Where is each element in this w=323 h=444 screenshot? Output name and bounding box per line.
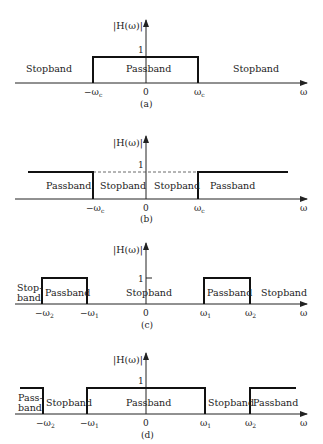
y-axis-label: |H(ω)|: [113, 20, 143, 32]
tick-label: 0: [143, 203, 149, 213]
band-label: Passband: [126, 63, 171, 74]
tick-label: 0: [143, 418, 149, 428]
band-label: Stopband: [233, 63, 279, 74]
unit-level-label: 1: [138, 376, 144, 386]
panel-d-bandstop: |H(ω)| 1 Pass- band Stopband Passband St…: [15, 353, 307, 440]
x-axis-label: ω: [300, 308, 307, 318]
tick-label: 0: [143, 87, 149, 97]
panel-caption: (c): [141, 320, 153, 330]
band-label: Stopband: [100, 180, 146, 191]
tick-label: ωc: [194, 87, 205, 98]
band-label: Stopband: [26, 63, 72, 74]
band-label: Stopband: [126, 287, 172, 298]
panel-caption: (b): [140, 214, 153, 224]
band-label: band: [18, 402, 42, 413]
band-label: Stopband: [46, 397, 92, 408]
tick-label: 0: [143, 308, 149, 318]
band-label: Stopband: [261, 287, 307, 298]
band-label: Passband: [253, 397, 298, 408]
x-axis-label: ω: [300, 418, 307, 428]
y-axis-label: |H(ω)|: [113, 244, 143, 256]
tick-label: −ω1: [80, 418, 99, 429]
tick-label: ω1: [200, 418, 211, 429]
panel-caption: (d): [141, 430, 154, 440]
filter-response-figure: |H(ω)| 1 Stopband Passband Stopband −ωc …: [0, 0, 323, 444]
tick-label: ωc: [194, 203, 205, 214]
y-axis-label: |H(ω)|: [113, 137, 143, 149]
band-label: Passband: [207, 287, 252, 298]
tick-label: ω2: [245, 418, 256, 429]
tick-label: −ωc: [86, 203, 105, 214]
tick-label: ω2: [245, 308, 256, 319]
band-label: Stopband: [208, 397, 254, 408]
y-axis-label: |H(ω)|: [113, 354, 143, 366]
band-label: Passband: [45, 287, 90, 298]
tick-label: −ω2: [36, 418, 55, 429]
tick-label: ω1: [200, 308, 211, 319]
band-label: Passband: [46, 180, 91, 191]
band-label: Passband: [126, 397, 171, 408]
unit-level-label: 1: [138, 160, 144, 170]
tick-label: −ω1: [80, 308, 99, 319]
tick-label: −ωc: [84, 87, 103, 98]
unit-level-label: 1: [138, 274, 144, 284]
panel-a-lowpass: |H(ω)| 1 Stopband Passband Stopband −ωc …: [15, 20, 307, 109]
panel-c-bandpass: |H(ω)| 1 Stop- band Passband Stopband Pa…: [15, 243, 307, 330]
x-axis-label: ω: [300, 203, 307, 213]
tick-label: −ω2: [35, 308, 54, 319]
panel-b-highpass: |H(ω)| 1 Passband Stopband Stopband Pass…: [15, 136, 307, 224]
band-label: Passband: [210, 180, 255, 191]
x-axis-label: ω: [300, 87, 307, 97]
panel-caption: (a): [140, 99, 152, 109]
band-label: band: [17, 292, 41, 303]
band-label: Stopband: [154, 180, 200, 191]
unit-level-label: 1: [138, 45, 144, 55]
